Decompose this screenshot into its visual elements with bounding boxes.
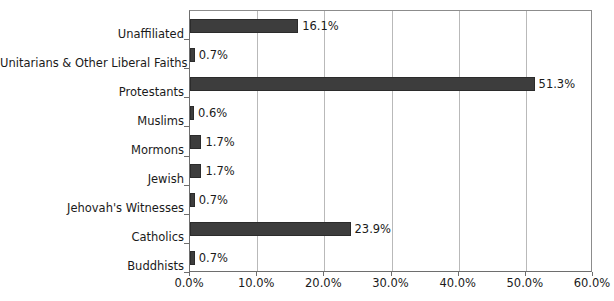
x-axis-tick [391, 272, 392, 276]
category-label: Mormons [0, 144, 184, 157]
category-label: Muslims [0, 115, 184, 128]
bar-chart: UnaffiliatedUnitarians & Other Liberal F… [0, 0, 614, 301]
x-axis-tick-label: 20.0% [305, 276, 342, 290]
x-axis-tick-label: 60.0% [574, 276, 611, 290]
gridline [392, 11, 393, 271]
gridline [459, 11, 460, 271]
bar-value-label: 23.9% [355, 222, 392, 236]
x-axis-tick [256, 272, 257, 276]
bar [190, 106, 194, 120]
x-axis-tick [323, 272, 324, 276]
bar [190, 135, 201, 149]
category-label: Protestants [0, 86, 184, 99]
bar-value-label: 1.7% [205, 135, 234, 149]
bar [190, 19, 298, 33]
x-axis-tick-label: 40.0% [439, 276, 476, 290]
bar-value-label: 51.3% [539, 77, 576, 91]
bar [190, 193, 195, 207]
x-axis-tick-label: 10.0% [238, 276, 275, 290]
x-axis-tick-label: 50.0% [507, 276, 544, 290]
category-label: Buddhists [0, 260, 184, 273]
x-axis-tick [525, 272, 526, 276]
bar-value-label: 0.7% [199, 193, 228, 207]
plot-area: 16.1%0.7%51.3%0.6%1.7%1.7%0.7%23.9%0.7% [189, 10, 592, 272]
bar [190, 77, 535, 91]
category-label: Jehovah's Witnesses [0, 202, 184, 215]
category-label: Catholics [0, 231, 184, 244]
bar [190, 251, 195, 265]
bar-value-label: 0.6% [198, 106, 227, 120]
x-axis-tick [189, 272, 190, 276]
value-axis: 0.0%10.0%20.0%30.0%40.0%50.0%60.0% [0, 276, 614, 296]
bar [190, 48, 195, 62]
bar-value-label: 16.1% [302, 19, 339, 33]
category-label: Unaffiliated [0, 28, 184, 41]
category-axis: UnaffiliatedUnitarians & Other Liberal F… [0, 10, 184, 272]
x-axis-tick-label: 30.0% [372, 276, 409, 290]
x-axis-tick [458, 272, 459, 276]
bar [190, 222, 351, 236]
gridline [526, 11, 527, 271]
bar-value-label: 1.7% [205, 164, 234, 178]
bar-value-label: 0.7% [199, 48, 228, 62]
category-label: Unitarians & Other Liberal Faiths [0, 57, 184, 70]
bar-value-label: 0.7% [199, 251, 228, 265]
x-axis-tick-label: 0.0% [174, 276, 203, 290]
x-axis-tick [592, 272, 593, 276]
category-label: Jewish [0, 173, 184, 186]
bar [190, 164, 201, 178]
